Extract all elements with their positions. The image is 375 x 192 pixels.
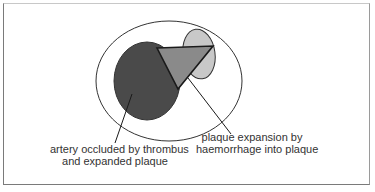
expansion-label-line1: plaque expansion by xyxy=(196,131,308,143)
occlusion-label: artery occluded by thrombus and expanded… xyxy=(50,143,180,167)
expansion-label-line2: haemorrhage into plaque xyxy=(196,143,308,155)
occlusion-label-line2: and expanded plaque xyxy=(50,155,180,167)
occlusion-label-line1: artery occluded by thrombus xyxy=(50,143,180,155)
expansion-label: plaque expansion by haemorrhage into pla… xyxy=(196,131,308,155)
